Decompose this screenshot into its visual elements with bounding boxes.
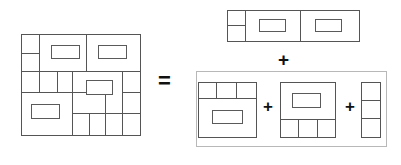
piece-lower-right-column-outline — [362, 83, 381, 138]
piece-top-strip — [228, 11, 360, 42]
whole-floorplan-room-1 — [99, 46, 127, 59]
plus-operator-main: + — [278, 50, 289, 69]
whole-floorplan — [22, 35, 141, 136]
piece-top-strip-room-1 — [316, 20, 342, 32]
whole-floorplan-room-2 — [87, 81, 113, 95]
floorplan-decomposition-svg — [0, 0, 401, 165]
piece-top-strip-room-0 — [260, 20, 286, 32]
whole-floorplan-room-3 — [32, 105, 60, 119]
plus-operator-b: + — [345, 98, 355, 115]
piece-lower-left-room-0 — [213, 111, 243, 124]
plus-operator-a: + — [263, 98, 273, 115]
diagram-canvas: = + + + — [0, 0, 401, 165]
piece-lower-right-column — [362, 83, 381, 138]
piece-lower-left — [199, 83, 257, 138]
piece-lower-middle-room-0 — [293, 94, 321, 108]
piece-lower-middle — [281, 83, 336, 138]
piece-lower-middle-outline — [281, 83, 336, 138]
equals-operator: = — [158, 70, 171, 92]
whole-floorplan-room-0 — [52, 46, 80, 59]
